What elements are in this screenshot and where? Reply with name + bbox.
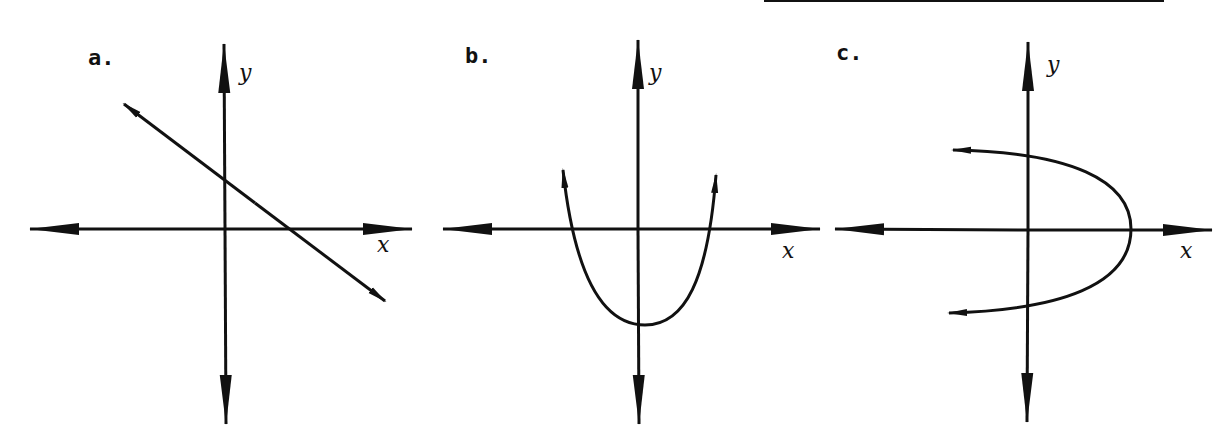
x-axis-label-c: x [1180, 238, 1192, 263]
panel-c [835, 42, 1212, 422]
x-axis-label-b: x [782, 238, 794, 263]
line-curve-a [124, 104, 255, 203]
panel-a-label: a. [88, 45, 115, 70]
panel-b-label: b. [465, 43, 492, 68]
y-axis-label-b: y [649, 60, 661, 85]
y-axis-label-c: y [1047, 52, 1059, 77]
panel-b [443, 40, 820, 424]
panel-a [30, 44, 412, 424]
parabola-curve-c [953, 150, 1131, 229]
y-axis-label-a: y [239, 60, 251, 85]
parabola-curve-b [563, 170, 645, 325]
x-axis-label-a: x [377, 232, 389, 257]
y-axis-a [224, 44, 225, 229]
panel-c-label: c. [836, 40, 863, 65]
